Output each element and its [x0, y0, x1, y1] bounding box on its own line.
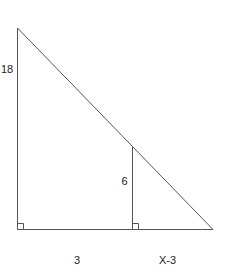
label-right-base: X-3	[159, 254, 176, 266]
right-angle-marker-inner	[133, 224, 139, 230]
right-angle-marker-left	[18, 224, 24, 230]
label-left-base: 3	[74, 254, 80, 266]
hypotenuse	[18, 28, 214, 230]
triangle-diagram: 18 6 3 X-3	[0, 0, 226, 276]
label-outer-height: 18	[1, 63, 13, 75]
label-inner-height: 6	[121, 175, 127, 187]
